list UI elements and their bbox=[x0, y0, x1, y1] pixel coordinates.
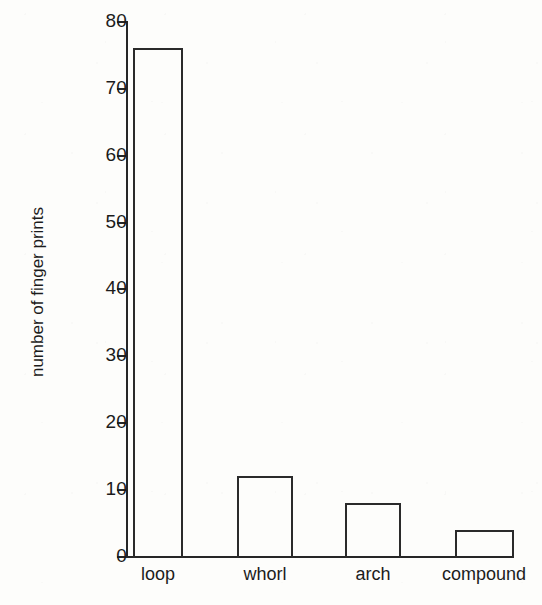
x-label-whorl: whorl bbox=[225, 563, 305, 585]
y-tick-10: 10 bbox=[0, 489, 127, 491]
bar-compound[interactable] bbox=[455, 530, 514, 558]
y-tick-60: 60 bbox=[0, 155, 127, 157]
y-tick-label: 50 bbox=[81, 212, 127, 231]
y-tick-30: 30 bbox=[0, 355, 127, 357]
y-tick-label: 70 bbox=[81, 78, 127, 97]
y-tick-label: 40 bbox=[81, 278, 127, 297]
y-tick-label: 30 bbox=[81, 345, 127, 364]
y-tick-80: 80 bbox=[0, 21, 127, 23]
x-label-compound: compound bbox=[425, 563, 542, 585]
y-tick-20: 20 bbox=[0, 422, 127, 424]
x-label-loop: loop bbox=[118, 563, 198, 585]
y-tick-label: 80 bbox=[81, 11, 127, 30]
y-tick-label: 20 bbox=[81, 412, 127, 431]
y-tick-label: 10 bbox=[81, 479, 127, 498]
y-tick-0: 0 bbox=[0, 556, 127, 558]
y-tick-50: 50 bbox=[0, 222, 127, 224]
bar-arch[interactable] bbox=[345, 503, 401, 558]
bar-whorl[interactable] bbox=[237, 476, 293, 558]
x-label-arch: arch bbox=[333, 563, 413, 585]
bar-loop[interactable] bbox=[133, 48, 183, 558]
y-tick-70: 70 bbox=[0, 88, 127, 90]
bar-chart: number of finger prints 0 10 20 30 40 50 bbox=[0, 0, 542, 605]
y-axis-title: number of finger prints bbox=[28, 162, 48, 422]
y-tick-label: 60 bbox=[81, 145, 127, 164]
y-tick-40: 40 bbox=[0, 288, 127, 290]
chart-page: number of finger prints 0 10 20 30 40 50 bbox=[0, 0, 542, 605]
